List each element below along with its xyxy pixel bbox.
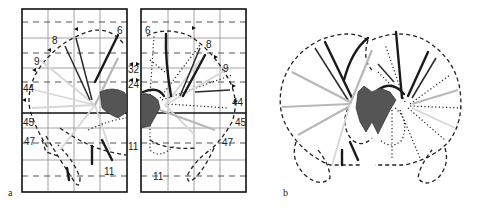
label-area32: 32 bbox=[128, 64, 140, 75]
label-right-area47: 47 bbox=[222, 137, 234, 148]
label-right-area6: 6 bbox=[145, 25, 151, 36]
panel-a-right-map bbox=[141, 9, 246, 192]
panel-letter-a: a bbox=[8, 187, 13, 198]
label-left-area44: 44 bbox=[23, 83, 35, 94]
label-left-area6: 6 bbox=[117, 25, 123, 36]
panel-a-left-map bbox=[22, 9, 127, 192]
label-right-area45: 45 bbox=[235, 117, 247, 128]
label-left-area9: 9 bbox=[34, 56, 40, 67]
label-left-area8: 8 bbox=[52, 35, 58, 46]
label-right-area11: 11 bbox=[153, 171, 164, 182]
label-right-area8: 8 bbox=[206, 39, 212, 50]
panel-b-brain-section bbox=[280, 32, 462, 183]
label-left-area47: 47 bbox=[24, 136, 36, 147]
label-right-area44: 44 bbox=[232, 97, 244, 108]
figure-canvas: 8 6 9 44 45 47 11 32 24 11 bbox=[0, 0, 480, 209]
label-right-area9: 9 bbox=[223, 63, 229, 74]
label-area11-center: 11 bbox=[128, 141, 139, 152]
panel-letter-b: b bbox=[283, 187, 288, 198]
label-left-area11: 11 bbox=[104, 166, 115, 177]
label-left-area45: 45 bbox=[23, 117, 35, 128]
